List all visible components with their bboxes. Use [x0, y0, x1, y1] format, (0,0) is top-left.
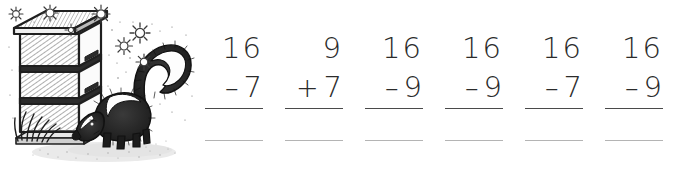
- problem-5-operator: –: [545, 74, 559, 101]
- problem-4-top-number: 16: [445, 34, 507, 66]
- problem-4-operator: –: [465, 74, 479, 101]
- beehive-and-skunk-illustration: [0, 0, 200, 172]
- problem-3-operation-row: – 9: [365, 73, 427, 105]
- problem-5-operand: 7: [564, 73, 583, 102]
- problem-2: 9 + 7: [285, 34, 347, 154]
- math-problems-row: 16 – 7 9 + 7 16 – 9: [200, 0, 677, 172]
- problem-6-operation-row: – 9: [605, 73, 667, 105]
- problem-2-operand: 7: [324, 73, 343, 102]
- problem-2-operation-row: + 7: [285, 73, 347, 105]
- problem-6-answer-line[interactable]: [605, 140, 663, 141]
- problem-6-operator: –: [625, 74, 639, 101]
- problem-6: 16 – 9: [605, 34, 667, 154]
- problem-3-answer-line[interactable]: [365, 140, 423, 141]
- problem-1-operation-row: – 7: [205, 73, 267, 105]
- problem-4-operation-row: – 9: [445, 73, 507, 105]
- worksheet-page: 16 – 7 9 + 7 16 – 9: [0, 0, 677, 172]
- problem-4: 16 – 9: [445, 34, 507, 154]
- problem-2-rule: [285, 108, 343, 109]
- problem-4-answer-line[interactable]: [445, 140, 503, 141]
- problem-3-rule: [365, 108, 423, 109]
- problem-5-answer-line[interactable]: [525, 140, 583, 141]
- problem-6-rule: [605, 108, 663, 109]
- problem-1-rule: [205, 108, 263, 109]
- problem-3-operand: 9: [404, 73, 423, 102]
- problem-1: 16 – 7: [205, 34, 267, 154]
- problem-6-top-number: 16: [605, 34, 667, 66]
- problem-1-answer-line[interactable]: [205, 140, 263, 141]
- problem-1-top-number: 16: [205, 34, 267, 66]
- problem-4-rule: [445, 108, 503, 109]
- problem-2-operator: +: [296, 74, 319, 101]
- problem-1-operand: 7: [244, 73, 263, 102]
- problem-3-operator: –: [385, 74, 399, 101]
- problem-6-operand: 9: [644, 73, 663, 102]
- problem-3: 16 – 9: [365, 34, 427, 154]
- problem-3-top-number: 16: [365, 34, 427, 66]
- problem-2-answer-line[interactable]: [285, 140, 343, 141]
- problem-1-operator: –: [225, 74, 239, 101]
- problem-5-rule: [525, 108, 583, 109]
- problem-2-top-number: 9: [285, 34, 347, 66]
- problem-5-top-number: 16: [525, 34, 587, 66]
- problem-5-operation-row: – 7: [525, 73, 587, 105]
- problem-4-operand: 9: [484, 73, 503, 102]
- problem-5: 16 – 7: [525, 34, 587, 154]
